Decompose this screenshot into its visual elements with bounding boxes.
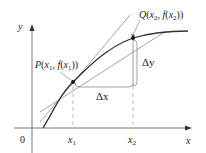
x-axis-arrow-icon [185,126,192,131]
point-p-label: P(x1, f(x1)) [34,59,78,72]
y-axis-arrow-icon [30,24,35,31]
q-leader-line [133,20,140,35]
x2-tick-label: x2 [127,134,136,147]
origin-label: 0 [20,134,25,145]
p-leader-line [60,72,71,80]
point-p [71,80,75,84]
delta-y-bracket [133,40,137,86]
x2-sub: 2 [132,139,136,147]
point-q-label: Q(x2, f(x2)) [139,9,183,22]
x1-tick-label: x1 [67,134,76,147]
function-curve [43,31,188,128]
x1-sub: 1 [72,139,76,147]
secant-tangent-diagram: y x 0 x1 x2 P(x1, f(x1)) Q(x2, f(x2)) Δx… [0,0,206,153]
point-q [131,36,135,40]
y-axis-label: y [17,21,23,32]
x-axis-label: x [185,135,191,146]
delta-x-label: Δx [96,90,109,102]
delta-y-label: Δy [142,56,155,68]
axes [14,24,192,153]
